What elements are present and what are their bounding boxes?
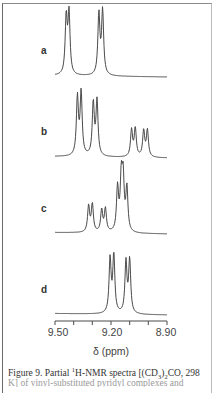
spectrum-label-d: d	[41, 284, 47, 295]
x-tick-label-8.90: 8.90	[156, 326, 176, 338]
spectrum-label-c: c	[41, 203, 47, 214]
caption-text: Figure 9. Partial	[8, 368, 72, 378]
spectrum-trace-a	[55, 6, 167, 77]
spectrum-label-b: b	[41, 126, 47, 137]
spectrum-trace-c	[55, 160, 167, 234]
x-axis	[55, 321, 167, 325]
x-tick-label-9.20: 9.20	[102, 326, 122, 338]
x-tick-label-9.50: 9.50	[48, 326, 68, 338]
spectrum-trace-b	[55, 88, 167, 158]
figure-caption-line2: K] of vinyl-substituted pyridyl complexe…	[8, 378, 212, 387]
spectrum-label-a: a	[41, 45, 47, 56]
x-axis-label: δ (ppm)	[93, 345, 129, 357]
caption-text: CO, 298	[168, 368, 200, 378]
spectrum-trace-d	[55, 252, 167, 314]
caption-text: H-NMR spectra [(CD	[75, 368, 158, 378]
